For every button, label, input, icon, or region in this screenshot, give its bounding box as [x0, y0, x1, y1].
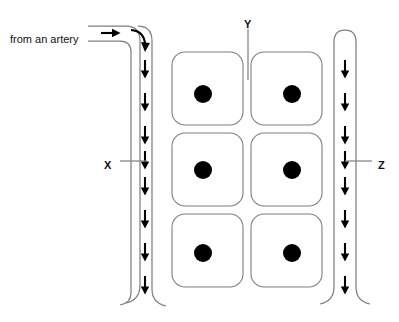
label-x-text: X: [104, 159, 111, 171]
left-vessel-inner-descending-wall: [120, 52, 131, 305]
left-vessel-flow-arrows: [141, 60, 149, 295]
cell-r3c1: [172, 214, 243, 287]
nucleus: [283, 244, 301, 262]
right-vessel-flow-arrows: [341, 60, 349, 295]
nucleus: [283, 85, 301, 103]
cell-r1c1: [172, 52, 243, 125]
inlet-caption-text: from an artery: [10, 33, 78, 45]
left-vessel-inner-wall: [88, 41, 131, 52]
label-z-text: Z: [378, 159, 385, 171]
table-row: [172, 133, 322, 206]
tissue-cell-grid: [172, 52, 322, 287]
cell-r3c2: [251, 214, 322, 287]
cell-r2c1: [172, 133, 243, 206]
label-z: Z: [378, 155, 385, 173]
nucleus: [194, 161, 212, 179]
label-y-text: Y: [244, 18, 251, 30]
label-y: Y: [244, 14, 251, 32]
nucleus: [194, 244, 212, 262]
cell-r1c2: [251, 52, 322, 125]
table-row: [172, 52, 322, 125]
left-vessel-group: [88, 26, 166, 306]
nucleus: [194, 85, 212, 103]
left-vessel-right-wall-lower: [152, 41, 166, 306]
label-x: X: [104, 155, 111, 173]
right-vessel-group: [320, 30, 370, 304]
diagram-canvas: [0, 0, 399, 322]
table-row: [172, 214, 322, 287]
cell-r2c2: [251, 133, 322, 206]
left-vessel-outer-wall: [88, 26, 140, 303]
inlet-caption-label: from an artery: [10, 29, 78, 47]
nucleus: [283, 161, 301, 179]
inlet-flow-arrow: [101, 29, 121, 37]
capillary-bed-diagram: from an artery X Y Z: [0, 0, 399, 322]
